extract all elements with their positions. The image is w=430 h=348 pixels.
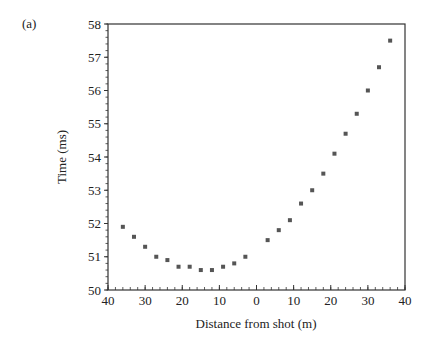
data-point — [199, 268, 203, 272]
x-tick-label: 20 — [176, 293, 189, 308]
data-point — [243, 255, 247, 259]
data-point — [143, 245, 147, 249]
data-point — [177, 265, 181, 269]
x-tick-label: 30 — [361, 293, 374, 308]
data-point — [221, 265, 225, 269]
x-tick-label: 10 — [213, 293, 226, 308]
y-axis-label: Time (ms) — [54, 130, 69, 184]
data-point — [366, 89, 370, 93]
scatter-chart: 40302010010203040 505152535455565758 Dis… — [0, 0, 430, 348]
y-tick-label: 52 — [88, 216, 101, 231]
data-point — [132, 235, 136, 239]
x-axis: 40302010010203040 — [102, 285, 412, 308]
data-point — [388, 39, 392, 43]
y-tick-label: 55 — [88, 116, 101, 131]
y-tick-label: 58 — [88, 17, 101, 32]
y-tick-label: 57 — [88, 50, 102, 65]
y-tick-label: 51 — [88, 249, 101, 264]
data-point — [310, 188, 314, 192]
data-point — [121, 225, 125, 229]
y-tick-label: 53 — [88, 183, 101, 198]
x-tick-label: 40 — [102, 293, 115, 308]
x-tick-label: 40 — [399, 293, 412, 308]
data-point — [288, 218, 292, 222]
data-point — [165, 258, 169, 262]
data-point — [210, 268, 214, 272]
data-point — [344, 132, 348, 136]
data-point — [277, 228, 281, 232]
x-tick-label: 0 — [253, 293, 260, 308]
data-point — [299, 202, 303, 206]
x-axis-label: Distance from shot (m) — [196, 316, 317, 331]
data-point — [321, 172, 325, 176]
plot-frame — [108, 24, 405, 290]
y-tick-label: 50 — [88, 283, 101, 298]
data-point — [188, 265, 192, 269]
data-point — [332, 152, 336, 156]
y-tick-label: 56 — [88, 83, 102, 98]
data-point — [266, 238, 270, 242]
data-point — [355, 112, 359, 116]
data-point — [232, 261, 236, 265]
y-tick-label: 54 — [88, 150, 102, 165]
x-tick-label: 10 — [287, 293, 300, 308]
x-tick-label: 30 — [139, 293, 152, 308]
data-point — [377, 65, 381, 69]
data-points — [121, 39, 392, 272]
y-axis: 505152535455565758 — [88, 17, 108, 298]
x-tick-label: 20 — [324, 293, 337, 308]
data-point — [154, 255, 158, 259]
